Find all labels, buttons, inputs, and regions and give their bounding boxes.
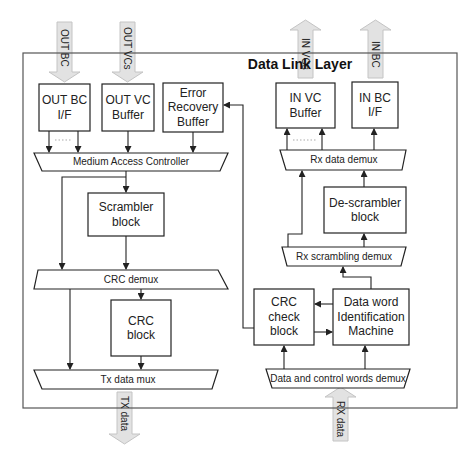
out-bc-label: OUT BC xyxy=(57,24,72,72)
tx-data-mux-label: Tx data mux xyxy=(42,370,214,389)
crc-demux-label: CRC demux xyxy=(42,270,220,289)
rx-data-label: RX data xyxy=(333,399,348,439)
in-vcs-label: IN VCs xyxy=(298,32,313,76)
scrambler-block-label: Scrambler block xyxy=(92,195,160,234)
out-vcs-label: OUT VCs xyxy=(120,24,135,72)
data-link-layer-diagram: Data Link Layer OUT BC OUT VCs IN VCs IN… xyxy=(0,0,476,459)
out-bc-if-label: OUT BC I/F xyxy=(41,86,88,129)
in-bc-label: IN BC xyxy=(368,32,383,76)
medium-access-controller-label: Medium Access Controller xyxy=(42,153,220,171)
descrambler-block-label: De-scrambler block xyxy=(326,189,404,231)
in-vc-buffer-label: IN VC Buffer xyxy=(278,85,333,126)
error-recovery-buffer-label: Error Recovery Buffer xyxy=(165,85,221,130)
in-bc-if-label: IN BC I/F xyxy=(354,84,396,126)
out-vc-buffer-label: OUT VC Buffer xyxy=(104,86,152,129)
rx-data-demux-label: Rx data demux xyxy=(286,150,402,170)
crc-check-block-label: CRC check block xyxy=(258,291,310,343)
data-word-id-machine-label: Data word Identification Machine xyxy=(335,291,407,343)
crc-block-label: CRC block xyxy=(115,302,167,354)
data-control-demux-label: Data and control words demux xyxy=(270,369,406,388)
tx-data-label: TX data xyxy=(117,394,132,434)
rx-scrambling-demux-label: Rx scrambling demux xyxy=(287,247,401,266)
